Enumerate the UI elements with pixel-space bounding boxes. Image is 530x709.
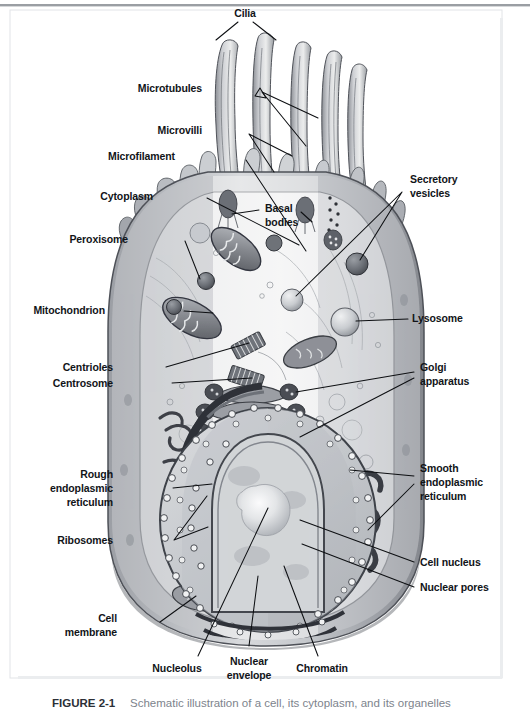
svg-text:bodies: bodies <box>265 216 298 228</box>
svg-text:vesicles: vesicles <box>410 187 450 199</box>
figure-stage: Cilia Microtubules Microvilli Microfilam… <box>0 0 530 709</box>
frame-shadow-right <box>500 18 503 678</box>
vesicle <box>167 300 182 315</box>
label-microvilli: Microvilli <box>157 124 202 136</box>
label-cytoplasm: Cytoplasm <box>100 190 153 202</box>
svg-text:Golgi: Golgi <box>420 361 447 373</box>
top-rule <box>0 4 530 6</box>
svg-text:Smooth: Smooth <box>420 462 458 474</box>
vesicle <box>190 223 210 243</box>
label-microtubules: Microtubules <box>138 82 202 94</box>
svg-text:endoplasmic: endoplasmic <box>50 482 113 494</box>
svg-text:envelope: envelope <box>227 669 272 681</box>
label-lysosome: Lysosome <box>412 312 463 324</box>
label-cilia: Cilia <box>234 7 256 19</box>
svg-text:Cell: Cell <box>98 612 117 624</box>
figure-caption: FIGURE 2-1 Schematic illustration of a c… <box>52 697 451 709</box>
vesicle <box>266 235 282 251</box>
label-peroxisome: Peroxisome <box>69 233 128 245</box>
label-ribosomes: Ribosomes <box>57 534 113 546</box>
caption-text: Schematic illustration of a cell, its cy… <box>130 697 451 709</box>
svg-text:Basal: Basal <box>265 202 293 214</box>
label-nuclear-pores: Nuclear pores <box>420 581 489 593</box>
svg-text:Rough: Rough <box>80 468 113 480</box>
svg-text:reticulum: reticulum <box>67 496 113 508</box>
label-centrioles: Centrioles <box>63 361 114 373</box>
svg-text:reticulum: reticulum <box>420 490 466 502</box>
svg-text:membrane: membrane <box>65 626 118 638</box>
label-mitochondrion: Mitochondrion <box>33 304 105 316</box>
caption-number: FIGURE 2-1 <box>52 697 116 709</box>
svg-text:endoplasmic: endoplasmic <box>420 476 483 488</box>
label-chromatin: Chromatin <box>296 662 348 674</box>
svg-text:Nuclear: Nuclear <box>230 655 268 667</box>
svg-text:apparatus: apparatus <box>420 375 470 387</box>
label-nucleolus: Nucleolus <box>152 662 202 674</box>
lysosome <box>331 308 359 336</box>
label-microfilament: Microfilament <box>108 150 176 162</box>
svg-text:Secretory: Secretory <box>410 173 458 185</box>
label-centrosome: Centrosome <box>53 377 114 389</box>
label-cell-nucleus: Cell nucleus <box>420 556 481 568</box>
peroxisome <box>198 273 215 290</box>
secretory-vesicle <box>346 253 368 275</box>
